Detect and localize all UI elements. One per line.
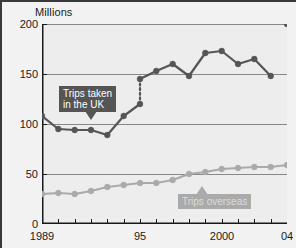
datapoint-0-2004 <box>284 24 287 27</box>
y-tick-150: 150 <box>8 68 38 80</box>
datapoint-1-2001 <box>235 165 241 171</box>
datapoint-0-2000 <box>219 48 225 54</box>
datapoint-1-1990 <box>55 190 61 196</box>
y-tick-100: 100 <box>8 118 38 130</box>
series-line-1-seg-0 <box>42 165 287 194</box>
annotation-trips-uk-line1: Trips taken <box>63 88 112 99</box>
x-tick-2000: 2000 <box>210 230 234 242</box>
datapoint-0-2002 <box>251 56 257 62</box>
datapoint-1-1995 <box>137 180 143 186</box>
datapoint-1-1989 <box>42 191 45 197</box>
annotation-trips-uk: Trips taken in the UK <box>59 86 116 112</box>
datapoint-0-2003 <box>268 73 274 79</box>
datapoint-1-2003 <box>268 164 274 170</box>
datapoint-1-2002 <box>251 164 257 170</box>
datapoint-1-2000 <box>219 166 225 172</box>
chart-figure: Millions 200 150 100 50 0 1989 95 2000 0… <box>0 0 296 248</box>
x-axis-tick-labels: 1989 95 2000 04 <box>42 230 287 246</box>
datapoint-1-1992 <box>88 188 94 194</box>
datapoint-0-1999 <box>202 50 208 56</box>
annotation-trips-uk-line2: in the UK <box>63 99 112 110</box>
annotation-trips-overseas: Trips overseas <box>178 194 251 209</box>
y-tick-200: 200 <box>8 18 38 30</box>
datapoint-1-1993 <box>104 184 110 190</box>
datapoint-1-1997 <box>170 177 176 183</box>
datapoint-1-1999 <box>202 169 208 175</box>
y-tick-0: 0 <box>8 218 38 230</box>
annotation-pointer-down-icon <box>85 111 97 120</box>
datapoint-1-1994 <box>121 182 127 188</box>
datapoint-0-2001 <box>235 61 241 67</box>
datapoint-0-1997 <box>170 61 176 67</box>
datapoint-0-1992 <box>88 127 94 133</box>
x-tick-1995: 95 <box>134 230 146 242</box>
datapoint-0-1994 <box>121 113 127 119</box>
datapoint-0-1991 <box>72 127 78 133</box>
datapoint-1-1996 <box>153 180 159 186</box>
annotation-pointer-up-icon <box>196 186 208 195</box>
x-tick-1989: 1989 <box>30 230 54 242</box>
datapoint-0-1995 <box>137 101 143 107</box>
datapoint-1-2004 <box>284 162 287 168</box>
y-axis-label: Millions <box>35 6 72 18</box>
datapoint-1-1998 <box>186 171 192 177</box>
annotation-trips-overseas-line1: Trips overseas <box>182 196 247 207</box>
datapoint-0-1996 <box>153 68 159 74</box>
datapoint-0-1995 <box>137 76 143 82</box>
y-axis-tick-labels: 200 150 100 50 0 <box>2 24 38 224</box>
y-tick-50: 50 <box>8 168 38 180</box>
datapoint-0-1990 <box>55 126 61 132</box>
datapoint-0-1993 <box>104 132 110 138</box>
datapoint-1-1991 <box>72 191 78 197</box>
datapoint-0-1998 <box>186 73 192 79</box>
x-tick-2004: 04 <box>281 230 293 242</box>
